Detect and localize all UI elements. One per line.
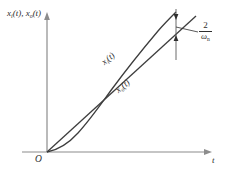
y-axis xyxy=(44,12,50,152)
plot-canvas xyxy=(0,0,225,175)
origin-label: O xyxy=(35,155,42,165)
annotation-numerator: 2 xyxy=(199,21,212,30)
annotation-omega-sub: n xyxy=(207,36,210,42)
x-axis-label: t xyxy=(212,156,215,165)
y-axis-label-mid: (t), x xyxy=(13,8,30,18)
y-axis-arrowhead xyxy=(44,12,50,20)
annotation-denominator: ωn xyxy=(199,32,212,41)
output-response-curve xyxy=(47,12,176,152)
x-axis xyxy=(22,149,212,155)
y-axis-label: xi(t), xo(t) xyxy=(7,9,41,18)
ramp-response-figure: xi(t), xo(t) t O xi(t) xo(t) 2 ωn xyxy=(0,0,225,175)
x-axis-arrowhead xyxy=(204,149,212,155)
steady-state-lag-annotation: 2 ωn xyxy=(199,21,212,41)
y-axis-label-end: (t) xyxy=(33,8,42,18)
gap-arrowhead-upper xyxy=(174,14,179,20)
